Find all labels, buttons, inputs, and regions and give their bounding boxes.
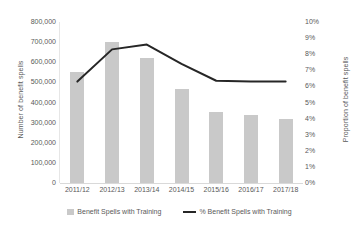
- y-left-tick: 400,000: [31, 99, 56, 107]
- y-left-tick: 600,000: [31, 58, 56, 66]
- line-swatch-icon: [183, 211, 196, 213]
- x-axis-tick-label: 2015/16: [199, 186, 233, 193]
- chart-container: Number of benefit spells Proportion of b…: [0, 0, 359, 234]
- y-right-tick: 4%: [305, 115, 315, 123]
- x-axis-tick-label: 2014/15: [165, 186, 199, 193]
- legend-item-benefit-spells-with-training: Benefit Spells with Training: [67, 208, 161, 215]
- chart-legend: Benefit Spells with Training % Benefit S…: [0, 208, 359, 215]
- y-right-tick: 3%: [305, 131, 315, 139]
- y-axis-right-ticks: 0%1%2%3%4%5%6%7%8%9%10%: [305, 0, 349, 234]
- y-right-tick: 0%: [305, 179, 315, 187]
- y-left-tick: 500,000: [31, 78, 56, 86]
- y-right-tick: 9%: [305, 34, 315, 42]
- legend-item-percent-benefit-spells-with-training: % Benefit Spells with Training: [183, 208, 291, 215]
- legend-label-bar: Benefit Spells with Training: [77, 208, 161, 215]
- y-left-tick: 100,000: [31, 159, 56, 167]
- bar-swatch-icon: [67, 209, 74, 215]
- x-axis-tick-label: 2012/13: [95, 186, 129, 193]
- y-right-tick: 6%: [305, 82, 315, 90]
- y-left-tick: 0: [52, 179, 56, 187]
- x-axis-tick-label: 2016/17: [234, 186, 268, 193]
- y-right-tick: 1%: [305, 163, 315, 171]
- x-axis-tick-label: 2017/18: [269, 186, 303, 193]
- y-right-tick: 2%: [305, 147, 315, 155]
- line-path: [77, 45, 285, 82]
- y-right-tick: 10%: [305, 18, 319, 26]
- plot-area: [60, 22, 303, 183]
- y-left-tick: 800,000: [31, 18, 56, 26]
- x-axis-tick-label: 2013/14: [130, 186, 164, 193]
- y-right-tick: 8%: [305, 50, 315, 58]
- y-left-tick: 700,000: [31, 38, 56, 46]
- y-right-tick: 5%: [305, 99, 315, 107]
- y-right-tick: 7%: [305, 66, 315, 74]
- y-left-tick: 200,000: [31, 139, 56, 147]
- x-axis-labels: 2011/122012/132013/142014/152015/162016/…: [60, 186, 303, 200]
- y-left-tick: 300,000: [31, 119, 56, 127]
- line-series-percent-benefit-spells-with-training: [60, 22, 303, 183]
- x-axis-tick-label: 2011/12: [60, 186, 94, 193]
- y-axis-left-ticks: 0100,000200,000300,000400,000500,000600,…: [12, 0, 56, 234]
- x-axis-line: [60, 183, 303, 184]
- legend-label-line: % Benefit Spells with Training: [199, 208, 291, 215]
